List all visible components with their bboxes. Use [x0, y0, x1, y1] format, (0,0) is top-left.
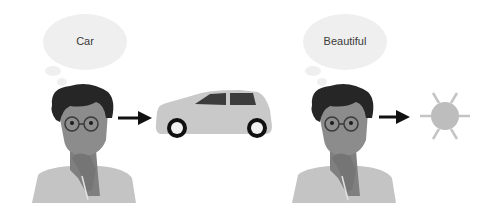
- thought-text-car: Car: [55, 35, 115, 47]
- car-icon: [156, 90, 272, 138]
- thought-bubble-beautiful: [303, 14, 387, 86]
- arrow-2: [379, 110, 410, 124]
- concept-diagram: Car Beautiful: [0, 0, 498, 214]
- sun-icon: [420, 93, 470, 139]
- thought-bubble-car: [43, 14, 127, 86]
- person-thinking-1: [32, 84, 136, 203]
- diagram-canvas: [0, 0, 498, 214]
- thought-text-beautiful: Beautiful: [305, 35, 385, 47]
- arrow-1: [118, 111, 152, 125]
- person-thinking-2: [292, 84, 396, 203]
